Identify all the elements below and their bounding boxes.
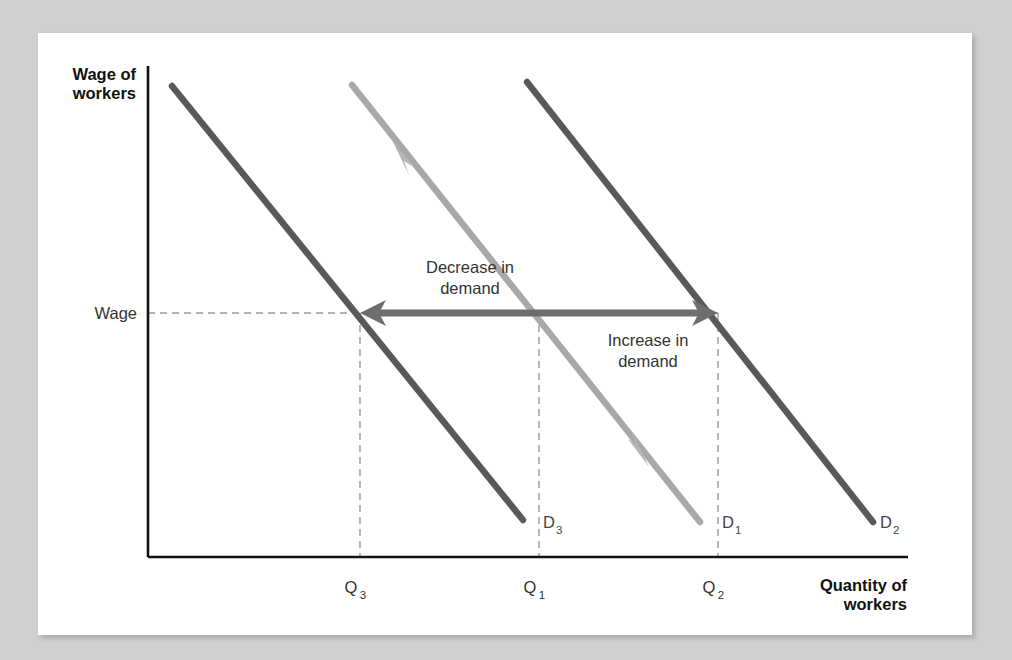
x-axis-title-line2: workers (843, 595, 907, 613)
curve-label-d3-base: D (543, 513, 555, 531)
x-tick-label-q3: Q 3 (345, 578, 367, 601)
x-tick-q2-base: Q (703, 578, 716, 596)
curve-label-d1-sub: 1 (735, 524, 741, 536)
curve-label-d3-sub: 3 (556, 524, 562, 536)
x-tick-label-q1: Q 1 (524, 578, 546, 601)
curve-label-d2-base: D (880, 513, 892, 531)
curve-label-d1-base: D (722, 513, 734, 531)
curve-label-d1: D 1 (722, 513, 741, 536)
annotation-decrease-in-demand: Decrease in demand (426, 258, 514, 297)
annotation-increase-line1: Increase in (608, 331, 689, 349)
curve-label-d2-sub: 2 (893, 524, 899, 536)
demand-curve-d3 (172, 86, 523, 520)
y-axis-title-line2: workers (72, 84, 136, 102)
annotation-decrease-line2: demand (440, 279, 500, 297)
demand-curve-d1-line (352, 85, 700, 522)
x-tick-q3-base: Q (345, 578, 358, 596)
demand-curve-d3-line (172, 86, 523, 520)
x-axis-title-line1: Quantity of (820, 576, 908, 594)
curve-label-d3: D 3 (543, 513, 562, 536)
annotation-increase-in-demand: Increase in demand (608, 331, 689, 370)
demand-curve-d2 (527, 82, 873, 522)
curve-label-d2: D 2 (880, 513, 899, 536)
demand-curve-d1 (352, 85, 700, 522)
annotation-increase-line2: demand (618, 352, 678, 370)
x-tick-q2-sub: 2 (718, 589, 724, 601)
x-tick-q3-sub: 3 (360, 589, 366, 601)
y-axis-title-line1: Wage of (72, 65, 136, 83)
x-tick-q1-base: Q (524, 578, 537, 596)
wage-level-label: Wage (95, 304, 138, 322)
demand-shift-diagram: Wage of workers Quantity of workers Wage… (38, 33, 972, 635)
annotation-decrease-line1: Decrease in (426, 258, 514, 276)
demand-curve-d2-line (527, 82, 873, 522)
x-tick-q1-sub: 1 (539, 589, 545, 601)
x-tick-label-q2: Q 2 (703, 578, 725, 601)
figure-panel: Wage of workers Quantity of workers Wage… (38, 33, 972, 635)
